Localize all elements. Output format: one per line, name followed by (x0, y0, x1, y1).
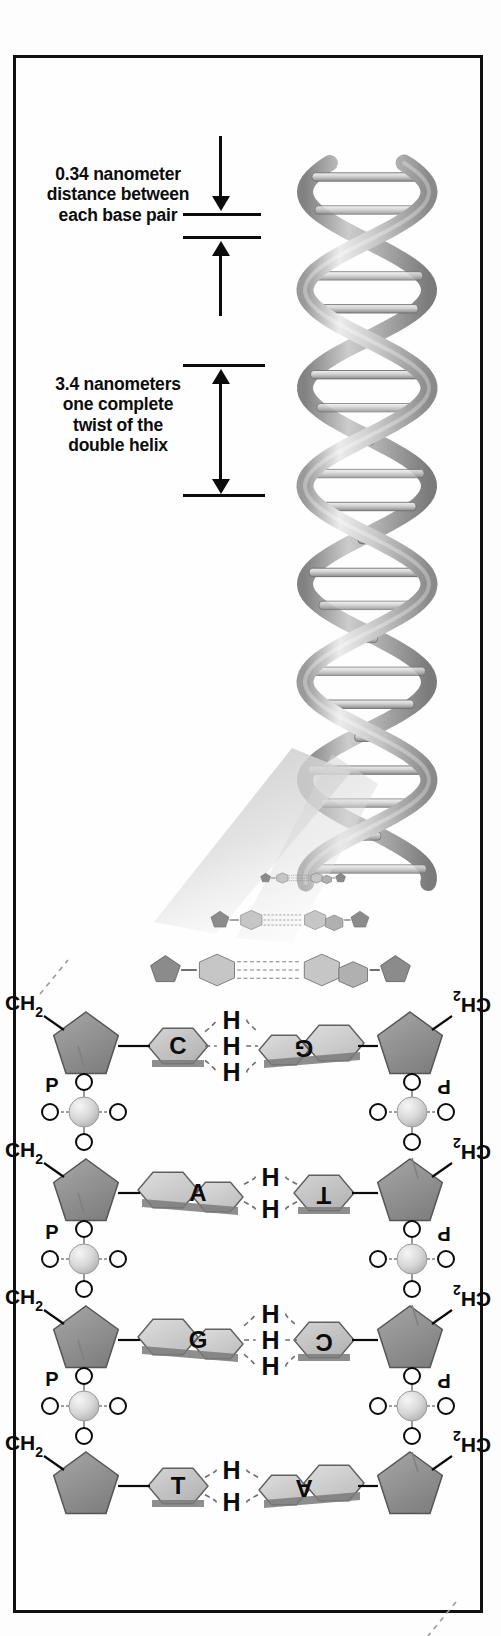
tick-pitch-top (183, 364, 265, 367)
hbond-right-segment (286, 1354, 297, 1366)
hydrogen-label: H (261, 1326, 279, 1354)
ch2-label-group: CH2 (453, 1428, 491, 1457)
sugar-ch2-bond (44, 1310, 64, 1324)
oxygen-atom (438, 1104, 454, 1120)
base-letter: A (189, 1179, 206, 1206)
oxygen-atom (404, 1281, 420, 1297)
ch2-subscript: 2 (453, 1428, 461, 1444)
annotation-line: double helix (18, 435, 218, 455)
pyrimidine-base: T (148, 1468, 208, 1507)
hbond-left-segment (205, 1060, 216, 1072)
sugar-pentagon (378, 1159, 443, 1221)
ch2-subscript: 2 (453, 1282, 461, 1298)
strand-continuation (428, 1602, 456, 1636)
base-pair-rung (309, 667, 426, 675)
base-pair-rung (311, 371, 424, 379)
sugar-pentagon (151, 956, 181, 982)
ch2-label-group: CH2 (5, 991, 43, 1020)
sugar-ch2-bond (432, 1163, 452, 1177)
oxygen-atom (370, 1251, 386, 1267)
oxygen-atom (404, 1134, 420, 1150)
hydrogen-bond: H (205, 1006, 258, 1034)
hbond-left-segment (244, 1177, 255, 1184)
deoxyribose-sugar: CH2 (378, 1428, 491, 1514)
hydrogen-bond: H (205, 1032, 258, 1060)
p-label-group: P (437, 1370, 450, 1392)
phosphate-group: P (370, 1368, 454, 1444)
phosphate-label: P (437, 1370, 450, 1392)
base-letter: A (295, 1475, 312, 1502)
annotation-line: one complete (18, 394, 218, 414)
sugar-pentagon (54, 1306, 119, 1368)
oxygen-atom (370, 1398, 386, 1414)
purine-base: G (138, 1319, 243, 1362)
hbond-right-segment (247, 1060, 258, 1072)
ch2-label: CH2 (5, 1138, 43, 1167)
helix-rung (311, 272, 422, 280)
base-pair-rung (309, 568, 425, 576)
hydrogen-bond: H (244, 1352, 297, 1380)
deoxyribose-sugar: CH2 (378, 1135, 491, 1221)
sugar-ch2-bond (432, 1016, 452, 1030)
pyrimidine-base: C (148, 1028, 208, 1067)
sugar-ch2-bond (432, 1310, 452, 1324)
ch2-subscript: 2 (453, 988, 461, 1004)
tick-spacing-upper (183, 213, 261, 216)
sugar-ch2-bond (44, 1163, 64, 1177)
ch2-label: CH2 (5, 991, 43, 1020)
annotation-line: twist of the (18, 415, 218, 435)
hydrogen-bond: H (205, 1058, 258, 1086)
hydrogen-bond: H (244, 1163, 297, 1191)
helix-rung (311, 371, 424, 379)
base-letter: C (169, 1032, 186, 1059)
tick-pitch-bottom (183, 494, 265, 497)
oxygen-atom (370, 1104, 386, 1120)
purine-base: G (259, 1025, 364, 1068)
oxygen-atom (76, 1074, 92, 1090)
ch2-subscript: 2 (35, 1444, 43, 1460)
measure-line-spacing-top (219, 136, 222, 198)
hydrogen-label: H (222, 1032, 240, 1060)
hbond-right-segment (286, 1177, 297, 1184)
ch2-label-group: CH2 (453, 1135, 491, 1164)
hydrogen-bond: H (244, 1300, 297, 1328)
hbond-left-segment (244, 1202, 255, 1209)
hbond-right-segment (247, 1470, 258, 1477)
oxygen-atom (404, 1428, 420, 1444)
hbond-left-segment (244, 1314, 255, 1326)
helix-rung (309, 667, 426, 675)
hydrogen-label: H (222, 1456, 240, 1484)
sugar-pentagon (378, 1452, 443, 1514)
phosphorus-atom (69, 1391, 99, 1421)
phosphorus-atom (397, 1097, 427, 1127)
sugar-pentagon (378, 1012, 443, 1074)
phosphate-group: P (370, 1221, 454, 1297)
ch2-subscript: 2 (35, 1151, 43, 1167)
oxygen-atom (404, 1221, 420, 1237)
base-shadow (152, 1500, 204, 1507)
oxygen-atom (404, 1368, 420, 1384)
pyrimidine-ring (199, 954, 234, 986)
oxygen-atom (438, 1398, 454, 1414)
hydrogen-label: H (261, 1300, 279, 1328)
oxygen-atom (404, 1074, 420, 1090)
ch2-label: CH2 (453, 1282, 491, 1311)
purine-ring-b (339, 962, 368, 988)
deoxyribose-sugar: CH2 (5, 1285, 118, 1368)
sugar-pentagon (381, 956, 411, 982)
phosphorus-atom (69, 1244, 99, 1274)
hbond-right-segment (286, 1314, 297, 1326)
hbond-left-segment (205, 1020, 216, 1032)
base-pair-row: CH2CH2GCHHH (5, 1282, 491, 1380)
purine-ring-a (304, 954, 339, 986)
ch2-label: CH2 (5, 1431, 43, 1460)
ch2-label-group: CH2 (453, 1282, 491, 1311)
arrowhead-down-pitch (212, 479, 230, 494)
p-label-group: P (45, 1074, 58, 1096)
purine-ring-b (325, 915, 343, 931)
p-label-group: P (437, 1223, 450, 1245)
phosphorus-atom (397, 1244, 427, 1274)
sugar-pentagon (54, 1012, 119, 1074)
oxygen-atom (76, 1368, 92, 1384)
sugar-pentagon (336, 873, 346, 882)
